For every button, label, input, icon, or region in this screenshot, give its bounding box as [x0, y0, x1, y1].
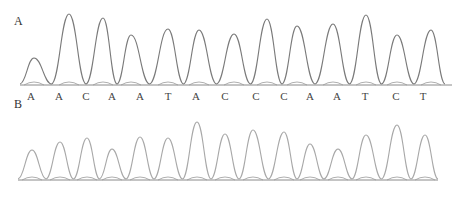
base-call: A [306, 90, 314, 102]
base-call: T [362, 90, 369, 102]
base-call: A [108, 90, 116, 102]
base-call: A [55, 90, 63, 102]
signal-trace [20, 14, 445, 84]
base-call: A [136, 90, 144, 102]
panel-a-trace [20, 14, 452, 85]
base-call: C [252, 90, 259, 102]
base-call: T [420, 90, 427, 102]
base-call: C [392, 90, 399, 102]
base-call: A [333, 90, 341, 102]
base-call: C [82, 90, 89, 102]
signal-trace [18, 122, 438, 179]
base-call: T [165, 90, 172, 102]
base-call: C [280, 90, 287, 102]
base-call: A [192, 90, 200, 102]
panel-b-trace [18, 122, 438, 180]
base-call: A [27, 90, 35, 102]
base-call: C [221, 90, 228, 102]
